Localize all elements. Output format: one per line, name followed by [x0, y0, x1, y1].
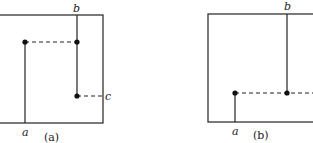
panel-a-dot-lower-right	[74, 93, 79, 98]
panel-a-label-a: a	[22, 126, 29, 139]
panel-a: b c a (a)	[0, 2, 111, 143]
panel-a-boundary-box	[0, 15, 103, 123]
panel-a-label-b: b	[73, 2, 80, 15]
panel-a-dot-left	[22, 39, 27, 44]
diagram-figure: b c a (a) b a (b)	[0, 0, 313, 143]
panel-b-dot-left	[232, 90, 237, 95]
panel-a-label-c: c	[105, 90, 111, 103]
panel-b-caption: (b)	[253, 129, 269, 142]
panel-b-boundary-box	[208, 14, 313, 122]
panel-b-label-a: a	[232, 125, 239, 138]
panel-b: b a (b)	[208, 0, 313, 142]
panel-b-label-b: b	[284, 0, 291, 13]
panel-a-dot-upper-right	[74, 39, 79, 44]
panel-a-caption: (a)	[44, 131, 59, 143]
panel-b-dot-right	[284, 90, 289, 95]
